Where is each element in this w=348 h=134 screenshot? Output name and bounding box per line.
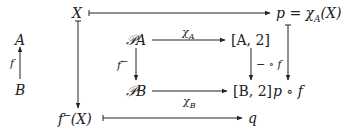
node-p-eq-main: p = χ [276, 5, 314, 21]
node-A: A [15, 33, 25, 47]
node-f-inverse-X: f←(X) [58, 111, 92, 126]
node-p-equals-chiA-X: p = χA(X) [276, 6, 341, 24]
label-chiA-main: χ [182, 26, 189, 39]
label-f-inverse: f← [117, 58, 128, 71]
node-X: X [72, 6, 82, 20]
arrow-X-to-p [89, 10, 270, 16]
node-q: q [248, 111, 257, 125]
node-fX-sup: ← [63, 110, 71, 120]
label-chiB: χB [183, 96, 196, 110]
label-minus-o-f: − ∘ f [256, 59, 282, 70]
node-PB: 𝒫B [126, 84, 146, 98]
node-p-eq-tail: (X) [321, 5, 342, 21]
node-p-compose-f: p ∘ f [273, 84, 303, 98]
node-B: B [15, 83, 25, 97]
node-fX-tail: (X) [71, 111, 92, 127]
node-B2: [B, 2] [233, 84, 272, 98]
arrow-X-to-fX [75, 21, 81, 108]
label-chiB-main: χ [183, 95, 190, 108]
label-f-inverse-sup: ← [121, 57, 128, 66]
label-chiB-sub: B [190, 101, 196, 110]
label-chiA: χA [182, 27, 194, 41]
arrow-fX-to-q [103, 115, 242, 121]
label-f: f [10, 58, 14, 69]
arrow-p-to-pof [285, 25, 291, 80]
node-PA: 𝒫A [126, 33, 146, 47]
node-A2: [A, 2] [231, 33, 270, 47]
commutative-diagram: X p = χA(X) A B 𝒫A [A, 2] 𝒫B [B, 2] p ∘ … [0, 0, 348, 134]
label-chiA-sub: A [189, 32, 195, 41]
